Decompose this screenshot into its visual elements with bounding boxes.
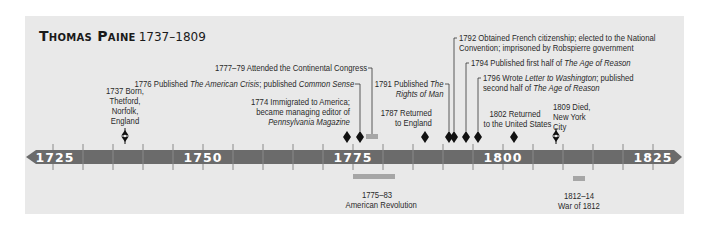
revolution-span-bar [353, 174, 395, 179]
congress-span-bar [366, 134, 378, 139]
diamond-1787-icon [421, 131, 429, 143]
war1812-span-bar [573, 176, 585, 181]
label-immigrated: 1774 Immigrated to America; became manag… [251, 97, 350, 127]
diamond-1792-icon [450, 131, 458, 143]
label-rights-of-man: 1791 Published The Rights of Man [374, 79, 443, 99]
label-american-revolution: 1775–83 American Revolution [346, 190, 409, 210]
diamond-1802-icon [510, 131, 518, 143]
diamond-1794-icon [462, 131, 470, 143]
label-returned-us: 1802 Returned to the United States [484, 109, 547, 129]
diamond-1774-icon [343, 131, 351, 143]
label-returned-england: 1787 Returned to England [381, 108, 432, 128]
label-letter: 1796 Wrote Letter to Washington; publish… [483, 73, 634, 93]
label-war-of-1812: 1812–14 War of 1812 [552, 191, 606, 211]
diamond-1776-icon [356, 131, 364, 143]
diamond-1796-icon [474, 131, 482, 143]
label-age-of-reason-1: 1794 Published first half of The Age of … [471, 58, 631, 68]
label-crisis: 1776 Published The American Crisis; publ… [134, 79, 354, 89]
label-citizenship: 1792 Obtained French citizenship; electe… [459, 33, 655, 53]
label-died: 1809 Died, New York City [553, 102, 590, 132]
label-born: 1737 Born, Thetford, Norfolk, England [104, 86, 145, 126]
label-congress: 1777–79 Attended the Continental Congres… [215, 63, 367, 73]
born-marker-icon [119, 128, 131, 144]
